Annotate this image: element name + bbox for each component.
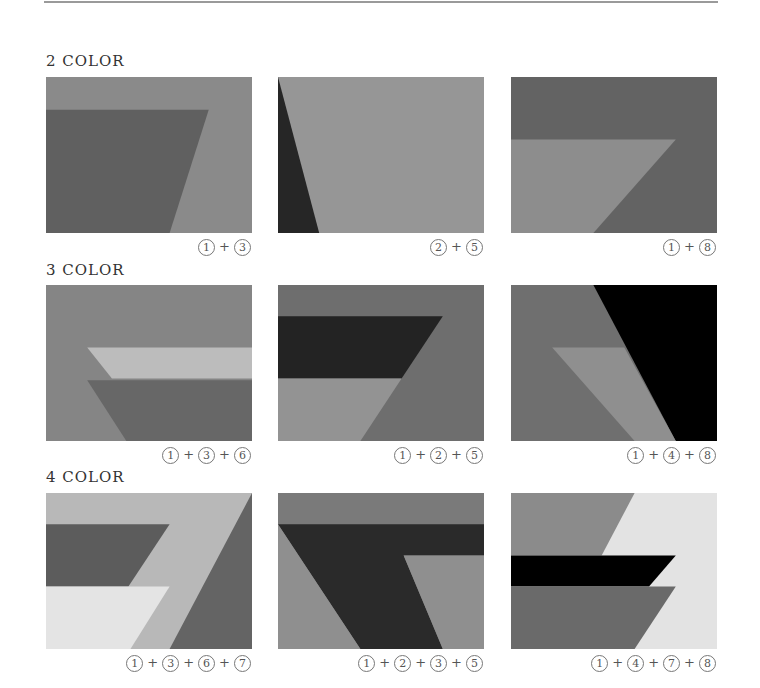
plus-sign: + (147, 655, 158, 670)
color-swatch-panel (278, 285, 484, 441)
plus-sign: + (183, 655, 194, 670)
plus-sign: + (379, 655, 390, 670)
circled-number-icon: 5 (466, 655, 483, 672)
color-combination-caption: 1+3 (197, 239, 252, 256)
circled-number-icon: 4 (627, 655, 644, 672)
circled-number-icon: 1 (591, 655, 608, 672)
circled-number-icon: 4 (663, 447, 680, 464)
plus-sign: + (415, 655, 426, 670)
circled-number-icon: 1 (394, 447, 411, 464)
color-swatch-panel (511, 285, 717, 441)
row-label: 4 COLOR (46, 468, 125, 486)
circled-number-icon: 8 (699, 447, 716, 464)
circled-number-icon: 5 (466, 447, 483, 464)
circled-number-icon: 2 (394, 655, 411, 672)
row-label: 3 COLOR (46, 261, 125, 279)
circled-number-icon: 1 (627, 447, 644, 464)
color-swatch-panel (46, 493, 252, 649)
circled-number-icon: 1 (663, 239, 680, 256)
plus-sign: + (183, 447, 194, 462)
circled-number-icon: 3 (198, 447, 215, 464)
color-swatch-panel (46, 285, 252, 441)
color-combination-caption: 1+4+7+8 (590, 655, 717, 672)
color-swatch-panel (278, 493, 484, 649)
circled-number-icon: 8 (699, 655, 716, 672)
plus-sign: + (451, 239, 462, 254)
plus-sign: + (612, 655, 623, 670)
circled-number-icon: 1 (198, 239, 215, 256)
color-combination-caption: 1+3+6 (161, 447, 252, 464)
circled-number-icon: 8 (699, 239, 716, 256)
circled-number-icon: 5 (466, 239, 483, 256)
plus-sign: + (684, 239, 695, 254)
color-swatch-panel (511, 493, 717, 649)
color-combination-caption: 1+3+6+7 (125, 655, 252, 672)
color-combination-caption: 1+4+8 (626, 447, 717, 464)
plus-sign: + (684, 655, 695, 670)
circled-number-icon: 2 (430, 239, 447, 256)
circled-number-icon: 3 (234, 239, 251, 256)
top-divider (44, 1, 718, 3)
plus-sign: + (648, 447, 659, 462)
plus-sign: + (219, 655, 230, 670)
plus-sign: + (451, 655, 462, 670)
plus-sign: + (219, 447, 230, 462)
circled-number-icon: 1 (358, 655, 375, 672)
plus-sign: + (451, 447, 462, 462)
plus-sign: + (415, 447, 426, 462)
circled-number-icon: 6 (198, 655, 215, 672)
color-swatch-panel (278, 77, 484, 233)
color-combination-caption: 1+8 (662, 239, 717, 256)
plus-sign: + (684, 447, 695, 462)
color-swatch-panel (46, 77, 252, 233)
circled-number-icon: 3 (430, 655, 447, 672)
color-swatch-panel (511, 77, 717, 233)
row-label: 2 COLOR (46, 52, 125, 70)
color-combination-caption: 1+2+5 (393, 447, 484, 464)
plus-sign: + (648, 655, 659, 670)
circled-number-icon: 3 (162, 655, 179, 672)
circled-number-icon: 6 (234, 447, 251, 464)
color-combination-caption: 2+5 (429, 239, 484, 256)
circled-number-icon: 1 (162, 447, 179, 464)
circled-number-icon: 7 (234, 655, 251, 672)
plus-sign: + (219, 239, 230, 254)
circled-number-icon: 7 (663, 655, 680, 672)
color-combination-caption: 1+2+3+5 (357, 655, 484, 672)
circled-number-icon: 1 (126, 655, 143, 672)
circled-number-icon: 2 (430, 447, 447, 464)
